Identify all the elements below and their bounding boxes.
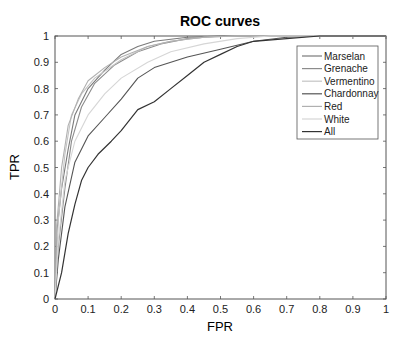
x-tick-label: 0.3 [147,303,162,315]
legend-label: White [324,114,350,125]
chart-title: ROC curves [180,13,260,29]
legend-label: Vermentino [324,76,375,87]
y-tick-label: 0.7 [34,109,49,121]
y-tick-label: 0.9 [34,56,49,68]
y-tick-label: 0.1 [34,267,49,279]
x-tick-label: 0 [52,303,58,315]
y-tick-label: 0.6 [34,135,49,147]
roc-chart: ROC curves 00.10.20.30.40.50.60.70.80.91… [0,0,401,350]
y-tick-label: 0.8 [34,83,49,95]
legend-label: Red [324,101,342,112]
x-tick-label: 0.6 [246,303,261,315]
legend: MarselanGrenacheVermentinoChardonnayRedW… [297,46,378,139]
y-tick-label: 0 [43,293,49,305]
x-tick-label: 0.4 [180,303,195,315]
y-tick-label: 0.3 [34,214,49,226]
y-axis-label: TPR [7,154,22,180]
x-tick-label: 0.9 [345,303,360,315]
y-tick-label: 0.2 [34,240,49,252]
y-tick-label: 0.4 [34,188,49,200]
legend-label: Marselan [324,51,365,62]
x-tick-label: 0.1 [80,303,95,315]
x-tick-label: 1 [383,303,389,315]
x-axis-label: FPR [207,319,233,334]
legend-label: Grenache [324,63,368,74]
legend-label: All [324,126,335,137]
x-tick-label: 0.2 [114,303,129,315]
x-tick-label: 0.5 [213,303,228,315]
legend-label: Chardonnay [324,88,378,99]
x-tick-label: 0.7 [279,303,294,315]
x-tick-label: 0.8 [312,303,327,315]
y-tick-label: 1 [43,30,49,42]
y-tick-label: 0.5 [34,162,49,174]
